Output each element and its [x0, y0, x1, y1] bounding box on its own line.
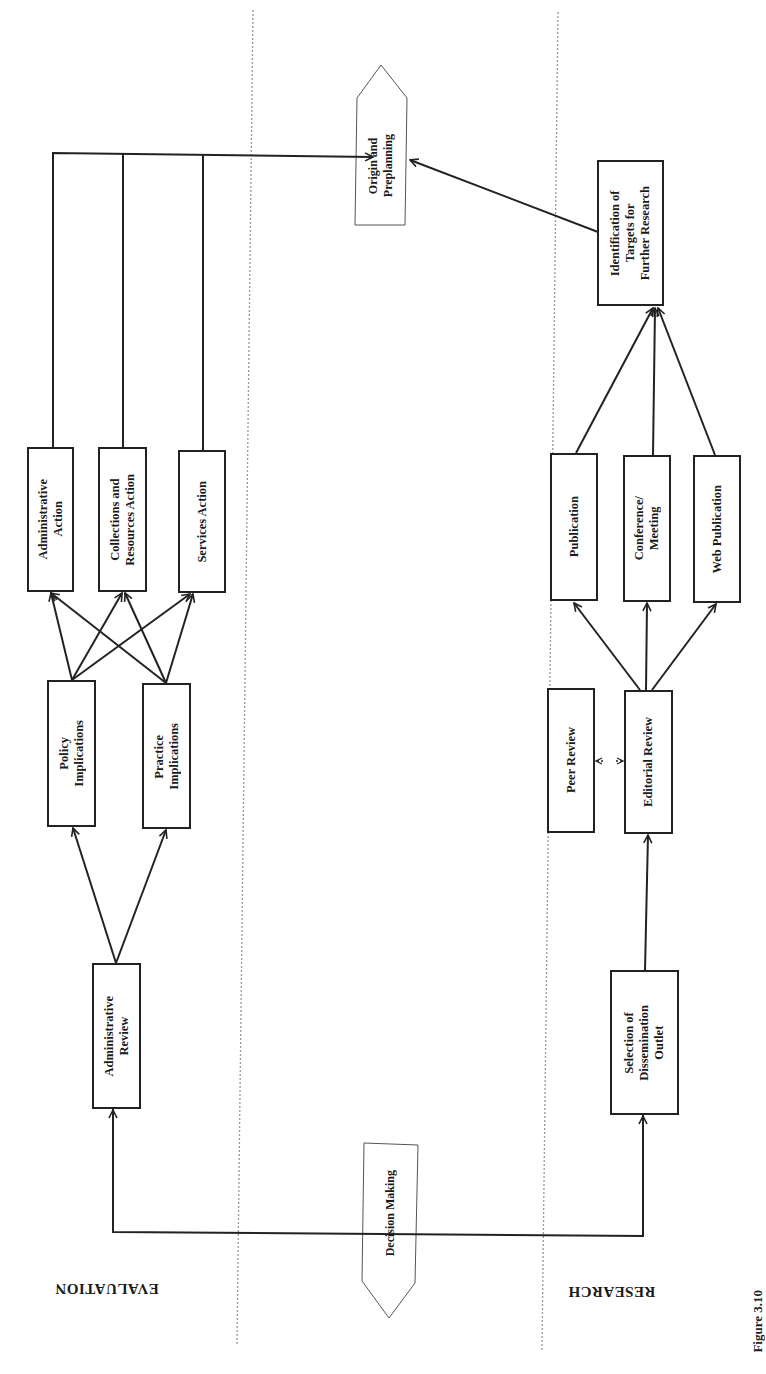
- identification-label: Identification of Targets for Further Re…: [608, 186, 653, 280]
- selection-box: Selection of Dissemination Outlet: [610, 970, 679, 1115]
- origin-terminal: Origin and Preplanning: [357, 110, 405, 222]
- decision-label: Decision Making: [383, 1170, 398, 1256]
- services-action-box: Services Action: [178, 450, 226, 593]
- research-lane-label: RESEARCH: [568, 1283, 655, 1300]
- web-publication-label: Web Publication: [710, 485, 725, 574]
- conference-box: Conference/ Meeting: [623, 455, 671, 602]
- selection-label: Selection of Dissemination Outlet: [622, 1005, 667, 1081]
- policy-implications-label: Policy Implications: [57, 720, 87, 787]
- lane-divider-left: [237, 10, 253, 1345]
- administrative-action-label: Administrative Action: [36, 479, 66, 560]
- decision-terminal: Decision Making: [364, 1148, 416, 1278]
- editorial-review-label: Editorial Review: [641, 717, 656, 807]
- editorial-review-box: Editorial Review: [624, 690, 673, 834]
- publication-box: Publication: [550, 453, 598, 601]
- services-action-label: Services Action: [195, 481, 210, 563]
- origin-label: Origin and Preplanning: [366, 134, 396, 197]
- evaluation-lane-label: EVALUATION: [55, 1280, 159, 1297]
- practice-implications-label: Practice Implications: [152, 723, 182, 790]
- peer-review-box: Peer Review: [547, 688, 595, 833]
- web-publication-box: Web Publication: [693, 455, 741, 603]
- administrative-review-label: Administrative Review: [102, 996, 132, 1077]
- figure-caption: Figure 3.10: [750, 1290, 766, 1353]
- identification-box: Identification of Targets for Further Re…: [597, 160, 664, 306]
- practice-implications-box: Practice Implications: [142, 683, 191, 829]
- peer-review-label: Peer Review: [564, 727, 579, 793]
- policy-implications-box: Policy Implications: [47, 680, 96, 827]
- conference-label: Conference/ Meeting: [632, 496, 662, 560]
- administrative-review-box: Administrative Review: [92, 963, 141, 1109]
- collections-action-label: Collections and Resources Action: [108, 474, 138, 566]
- administrative-action-box: Administrative Action: [27, 447, 74, 592]
- publication-label: Publication: [567, 496, 582, 557]
- collections-action-box: Collections and Resources Action: [98, 447, 147, 592]
